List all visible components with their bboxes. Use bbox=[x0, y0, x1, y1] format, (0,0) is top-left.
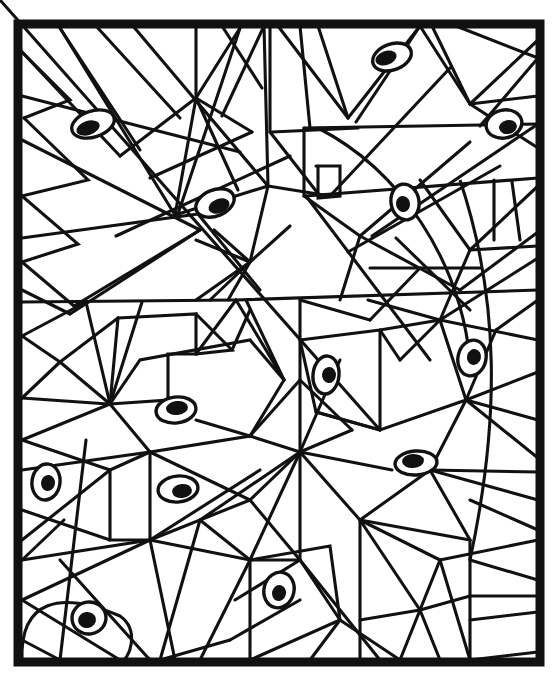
artwork-canvas bbox=[0, 0, 559, 686]
mosaic-line-drawing bbox=[0, 0, 559, 686]
eye-lower-right bbox=[394, 450, 438, 477]
